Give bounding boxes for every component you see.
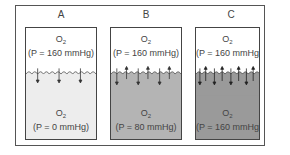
- liquid-pressure-a: (P = 0 mmHg): [26, 122, 96, 133]
- gas-phase-text-c: O2 (P = 160 mmHg): [196, 34, 259, 59]
- liquid-pressure-b: (P = 80 mmHg): [111, 122, 181, 133]
- gas-pressure-b: (P = 160 mmHg): [111, 48, 181, 59]
- panel-label-b: B: [110, 9, 182, 20]
- liquid-pressure-c: (P = 160 mmHg): [196, 122, 259, 133]
- panel-label-c: C: [195, 9, 267, 20]
- panel-label-a: A: [25, 9, 97, 20]
- beaker-b: O2 (P = 160 mmHg) O2 (P = 80 mmHg): [110, 27, 182, 140]
- wave-arrows-icon-b: [111, 66, 181, 96]
- beaker-a: O2 (P = 160 mmHg) O2 (P = 0 mmHg): [25, 27, 97, 140]
- wave-arrows-icon-a: [26, 66, 96, 96]
- gas-phase-text-a: O2 (P = 160 mmHg): [26, 34, 96, 59]
- liquid-phase-text-a: O2 (P = 0 mmHg): [26, 108, 96, 133]
- wave-arrows-icon-c: [196, 66, 259, 96]
- gas-pressure-a: (P = 160 mmHg): [26, 48, 96, 59]
- liquid-phase-text-b: O2 (P = 80 mmHg): [111, 108, 181, 133]
- liquid-phase-text-c: O2 (P = 160 mmHg): [196, 108, 259, 133]
- gas-phase-text-b: O2 (P = 160 mmHg): [111, 34, 181, 59]
- gas-pressure-c: (P = 160 mmHg): [196, 48, 259, 59]
- beaker-c: O2 (P = 160 mmHg) O2 (P = 160 mmHg): [195, 27, 260, 140]
